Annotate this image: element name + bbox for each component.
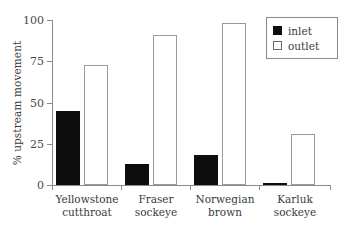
bar-inlet-0 (56, 111, 80, 185)
y-tick-label-50: 50 (30, 96, 44, 109)
legend-item-inlet: inlet (273, 23, 331, 38)
bar-outlet-2 (222, 23, 246, 185)
y-tick-label-100: 100 (23, 14, 44, 27)
y-tick-label-0: 0 (37, 179, 44, 192)
y-tick-label-25: 25 (30, 137, 44, 150)
legend-swatch-outlet-icon (273, 41, 282, 50)
y-tick-label-75: 75 (30, 55, 44, 68)
bar-outlet-0 (84, 65, 108, 185)
y-axis-label: % upstream movement (11, 23, 23, 183)
x-tick-2 (190, 185, 191, 190)
x-tick-4 (330, 185, 331, 190)
x-axis-line (52, 185, 331, 186)
bar-inlet-1 (125, 164, 149, 185)
bar-outlet-3 (291, 134, 315, 185)
bar-inlet-3 (263, 183, 287, 185)
legend-swatch-inlet-icon (273, 26, 282, 35)
bar-outlet-1 (153, 35, 177, 185)
bar-inlet-2 (194, 155, 218, 185)
x-category-label-3: Karluk sockeye (244, 193, 346, 219)
legend: inlet outlet (266, 17, 338, 59)
x-tick-1 (121, 185, 122, 190)
x-category-line-3-1: sockeye (244, 206, 346, 219)
legend-item-outlet: outlet (273, 38, 331, 53)
bar-chart: % upstream movement 0 25 50 75 100 (0, 0, 346, 235)
legend-label-outlet: outlet (288, 40, 319, 52)
x-category-line-3-0: Karluk (244, 193, 346, 206)
x-tick-3 (259, 185, 260, 190)
x-tick-0 (52, 185, 53, 190)
legend-label-inlet: inlet (288, 25, 312, 37)
